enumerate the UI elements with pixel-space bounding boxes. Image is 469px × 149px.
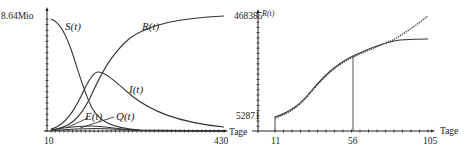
data-curve bbox=[275, 16, 428, 118]
label-I: I(t) bbox=[128, 83, 143, 96]
label-Q: Q(t) bbox=[116, 110, 135, 123]
left-x-axis-label: Tage bbox=[229, 127, 247, 137]
series-R-curve bbox=[51, 16, 224, 130]
right-y-bottom-label: 52871 bbox=[236, 111, 260, 121]
right-x-end-label: 105 bbox=[423, 136, 438, 146]
left-y-ticks bbox=[46, 19, 49, 131]
series-S-curve bbox=[51, 19, 226, 131]
right-x-start-label: 11 bbox=[271, 136, 280, 146]
left-x-start-label: 10 bbox=[44, 136, 54, 146]
right-x-axis-label: Tage bbox=[440, 126, 458, 136]
left-y-top-label: 8.64Mio bbox=[1, 11, 34, 21]
right-x-arrow-icon bbox=[431, 130, 435, 133]
left-y-arrow-icon bbox=[46, 7, 49, 11]
right-y-top-label: 468385 bbox=[234, 11, 263, 21]
label-R: R(t) bbox=[141, 20, 159, 33]
left-chart: 8.64Mio 10 430 Tage S(t) R(t) I(t) E(t) … bbox=[1, 7, 247, 146]
right-y-axis-label: R(t) bbox=[261, 9, 275, 18]
label-E: E(t) bbox=[84, 110, 102, 123]
right-chart: 468385 R(t) 52871 11 56 105 Tage bbox=[234, 9, 458, 146]
left-x-end-label: 430 bbox=[214, 136, 229, 146]
series-I-curve bbox=[51, 72, 224, 129]
right-x-mid-label: 56 bbox=[348, 136, 358, 146]
label-S: S(t) bbox=[65, 20, 81, 33]
charts-canvas: 8.64Mio 10 430 Tage S(t) R(t) I(t) E(t) … bbox=[0, 0, 469, 149]
